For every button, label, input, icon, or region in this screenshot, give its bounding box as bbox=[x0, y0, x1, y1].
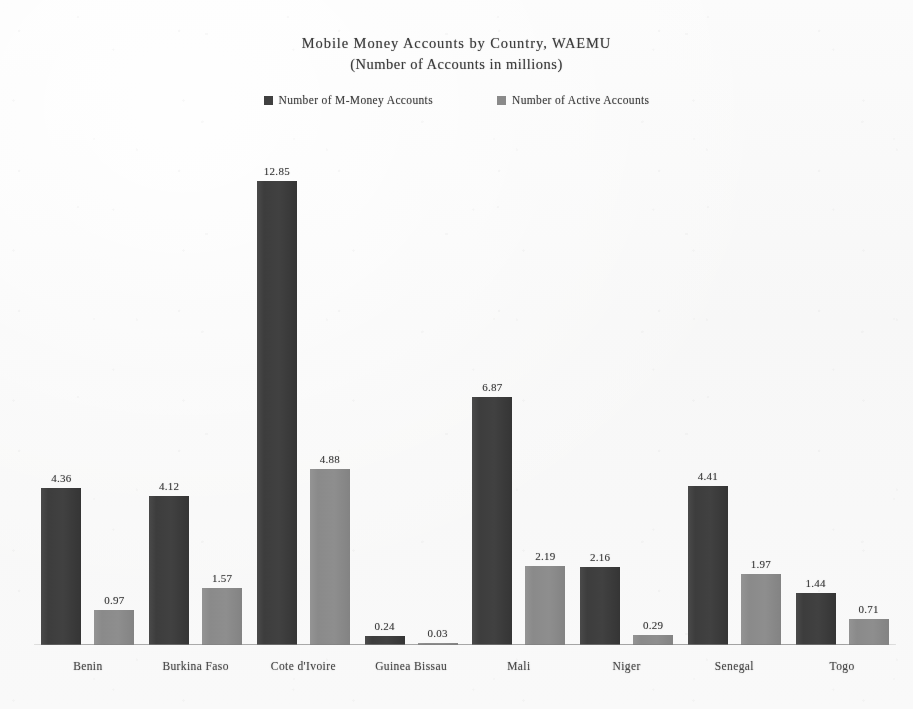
category-label: Niger bbox=[573, 660, 681, 672]
category-label: Benin bbox=[34, 660, 142, 672]
category-axis-labels: BeninBurkina FasoCote d'IvoireGuinea Bis… bbox=[34, 660, 896, 672]
bar-value-label: 1.44 bbox=[805, 577, 825, 589]
bar-primary-wrap[interactable]: 12.85 bbox=[257, 140, 297, 645]
category-label: Cote d'Ivoire bbox=[250, 660, 358, 672]
bar-m-money-accounts[interactable] bbox=[580, 567, 620, 645]
bar-m-money-accounts[interactable] bbox=[472, 397, 512, 645]
bar-value-label: 0.03 bbox=[427, 627, 447, 639]
bar-value-label: 0.97 bbox=[104, 594, 124, 606]
bar-m-money-accounts[interactable] bbox=[41, 488, 81, 645]
bar-groups: 4.360.974.121.5712.854.880.240.036.872.1… bbox=[34, 140, 896, 645]
bar-group: 4.121.57 bbox=[142, 140, 250, 645]
legend-swatch-icon bbox=[264, 96, 273, 105]
category-label: Senegal bbox=[681, 660, 789, 672]
bar-active-accounts[interactable] bbox=[310, 469, 350, 645]
legend-swatch-icon bbox=[497, 96, 506, 105]
chart-page: Mobile Money Accounts by Country, WAEMU … bbox=[0, 0, 913, 709]
category-label: Burkina Faso bbox=[142, 660, 250, 672]
category-label: Togo bbox=[788, 660, 896, 672]
bar-value-label: 1.57 bbox=[212, 572, 232, 584]
bar-value-label: 0.24 bbox=[374, 620, 394, 632]
category-label: Guinea Bissau bbox=[357, 660, 465, 672]
legend-label: Number of Active Accounts bbox=[512, 94, 649, 106]
bar-primary-wrap[interactable]: 4.41 bbox=[688, 140, 728, 645]
legend-entry-active-accounts[interactable]: Number of Active Accounts bbox=[497, 94, 649, 106]
bar-m-money-accounts[interactable] bbox=[796, 593, 836, 645]
bar-primary-wrap[interactable]: 0.24 bbox=[365, 140, 405, 645]
bar-value-label: 2.19 bbox=[535, 550, 555, 562]
bar-group: 1.440.71 bbox=[788, 140, 896, 645]
legend-entry-m-money-accounts[interactable]: Number of M-Money Accounts bbox=[264, 94, 433, 106]
bar-secondary-wrap[interactable]: 1.57 bbox=[202, 140, 242, 645]
title-block: Mobile Money Accounts by Country, WAEMU … bbox=[0, 33, 913, 75]
bar-secondary-wrap[interactable]: 0.71 bbox=[849, 140, 889, 645]
chart-title: Mobile Money Accounts by Country, WAEMU bbox=[0, 33, 913, 54]
bar-group: 6.872.19 bbox=[465, 140, 573, 645]
plot-area: 4.360.974.121.5712.854.880.240.036.872.1… bbox=[34, 140, 896, 645]
bar-active-accounts[interactable] bbox=[849, 619, 889, 645]
bar-value-label: 4.41 bbox=[698, 470, 718, 482]
bar-m-money-accounts[interactable] bbox=[257, 181, 297, 645]
bar-secondary-wrap[interactable]: 0.97 bbox=[94, 140, 134, 645]
bar-active-accounts[interactable] bbox=[94, 610, 134, 645]
bar-group: 12.854.88 bbox=[250, 140, 358, 645]
bar-active-accounts[interactable] bbox=[525, 566, 565, 645]
bar-group: 4.411.97 bbox=[681, 140, 789, 645]
bar-group: 4.360.97 bbox=[34, 140, 142, 645]
bar-secondary-wrap[interactable]: 2.19 bbox=[525, 140, 565, 645]
chart-legend: Number of M-Money Accounts Number of Act… bbox=[0, 94, 913, 106]
chart-subtitle: (Number of Accounts in millions) bbox=[0, 54, 913, 75]
bar-value-label: 2.16 bbox=[590, 551, 610, 563]
bar-value-label: 4.88 bbox=[320, 453, 340, 465]
bar-active-accounts[interactable] bbox=[202, 588, 242, 645]
bar-value-label: 1.97 bbox=[751, 558, 771, 570]
bar-m-money-accounts[interactable] bbox=[149, 496, 189, 645]
bar-primary-wrap[interactable]: 1.44 bbox=[796, 140, 836, 645]
bar-secondary-wrap[interactable]: 0.29 bbox=[633, 140, 673, 645]
bar-secondary-wrap[interactable]: 0.03 bbox=[418, 140, 458, 645]
bar-active-accounts[interactable] bbox=[741, 574, 781, 645]
bar-group: 2.160.29 bbox=[573, 140, 681, 645]
legend-label: Number of M-Money Accounts bbox=[279, 94, 433, 106]
bar-value-label: 0.71 bbox=[858, 603, 878, 615]
bar-primary-wrap[interactable]: 4.12 bbox=[149, 140, 189, 645]
bar-primary-wrap[interactable]: 6.87 bbox=[472, 140, 512, 645]
bar-value-label: 0.29 bbox=[643, 619, 663, 631]
bar-secondary-wrap[interactable]: 4.88 bbox=[310, 140, 350, 645]
bar-secondary-wrap[interactable]: 1.97 bbox=[741, 140, 781, 645]
bar-value-label: 12.85 bbox=[264, 165, 290, 177]
bar-primary-wrap[interactable]: 4.36 bbox=[41, 140, 81, 645]
bar-group: 0.240.03 bbox=[357, 140, 465, 645]
bar-value-label: 4.12 bbox=[159, 480, 179, 492]
x-axis-baseline bbox=[34, 644, 896, 645]
bar-m-money-accounts[interactable] bbox=[688, 486, 728, 645]
bar-primary-wrap[interactable]: 2.16 bbox=[580, 140, 620, 645]
bar-value-label: 4.36 bbox=[51, 472, 71, 484]
bar-value-label: 6.87 bbox=[482, 381, 502, 393]
category-label: Mali bbox=[465, 660, 573, 672]
